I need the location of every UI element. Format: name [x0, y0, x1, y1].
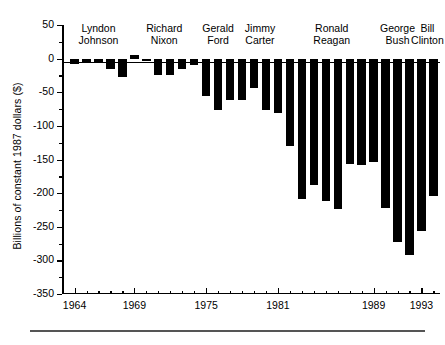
x-tick-1979 [254, 291, 255, 295]
y-tick-label: -300 [22, 253, 54, 265]
bar-1966 [94, 59, 102, 64]
president-label-gerald-ford: GeraldFord [202, 23, 234, 46]
y-tick-0 [57, 59, 62, 60]
bar-1983 [298, 59, 306, 200]
x-tick-1986 [338, 291, 339, 295]
y-tick-label: -150 [22, 153, 54, 165]
x-tick-label: 1975 [194, 299, 217, 311]
president-first-name: Gerald [202, 23, 234, 35]
bar-1990 [381, 59, 389, 208]
president-last-name: Carter [245, 35, 275, 47]
y-tick--350 [57, 294, 62, 295]
bar-1976 [214, 59, 222, 110]
bar-1985 [322, 59, 330, 202]
x-tick-1965 [87, 291, 88, 295]
x-tick-1967 [110, 291, 111, 295]
x-tick-1990 [386, 291, 387, 295]
bar-1967 [106, 59, 114, 70]
y-tick-minor [59, 75, 63, 76]
x-tick-label: 1993 [410, 299, 433, 311]
y-tick-minor [59, 176, 63, 177]
y-tick-label: -250 [22, 220, 54, 232]
y-tick-minor [59, 42, 63, 43]
bar-1991 [393, 59, 401, 243]
president-last-name: Reagan [313, 35, 350, 47]
y-tick-50 [57, 25, 62, 26]
bar-1987 [346, 59, 354, 165]
y-tick-minor [59, 210, 63, 211]
y-tick--200 [57, 193, 62, 194]
president-label-jimmy-carter: JimmyCarter [245, 23, 275, 46]
plot-area: 500-50-100-150-200-250-300-350 196419691… [62, 25, 440, 294]
x-tick-1972 [170, 291, 171, 295]
bar-1989 [369, 59, 377, 163]
bar-1974 [190, 59, 198, 65]
y-tick-label: -100 [22, 119, 54, 131]
bar-1968 [118, 59, 126, 77]
bar-1992 [405, 59, 413, 255]
y-tick-minor [59, 109, 63, 110]
y-tick--300 [57, 260, 62, 261]
bar-1964 [70, 59, 78, 64]
x-tick-label: 1989 [362, 299, 385, 311]
president-label-lyndon-johnson: LyndonJohnson [79, 23, 119, 46]
x-tick-1976 [218, 291, 219, 295]
x-tick-1985 [326, 291, 327, 295]
x-tick-1992 [409, 291, 410, 295]
x-tick-1973 [182, 291, 183, 295]
x-tick-1974 [194, 291, 195, 295]
bar-1993 [417, 59, 425, 232]
president-first-name: Jimmy [245, 23, 275, 35]
y-tick--100 [57, 126, 62, 127]
bar-1982 [286, 59, 294, 146]
x-tick-1988 [362, 291, 363, 295]
x-tick-1969 [134, 288, 135, 294]
president-first-name: Ronald [313, 23, 350, 35]
president-last-name: Ford [202, 35, 234, 47]
president-first-name: George [380, 23, 415, 35]
page-rule [30, 330, 425, 332]
chart-figure: Billions of constant 1987 dollars ($) 50… [0, 0, 445, 345]
bar-1965 [82, 59, 90, 62]
x-tick-1982 [290, 291, 291, 295]
bar-1988 [357, 59, 365, 165]
x-tick-label: 1969 [123, 299, 146, 311]
y-tick-label: -350 [22, 287, 54, 299]
x-tick-1975 [206, 288, 207, 294]
president-first-name: Bill [411, 23, 444, 35]
y-tick-label: -50 [22, 85, 54, 97]
x-tick-1994 [433, 291, 434, 295]
x-tick-1970 [146, 291, 147, 295]
president-label-ronald-reagan: RonaldReagan [313, 23, 350, 46]
president-last-name: Nixon [146, 35, 182, 47]
y-tick-minor [59, 277, 63, 278]
x-tick-1980 [266, 291, 267, 295]
x-tick-label: 1964 [63, 299, 86, 311]
bar-1975 [202, 59, 210, 96]
x-tick-1966 [98, 291, 99, 295]
bar-1969 [130, 55, 138, 58]
bar-1980 [262, 59, 270, 110]
y-tick-minor [59, 143, 63, 144]
bar-1973 [178, 59, 186, 70]
x-tick-1987 [350, 291, 351, 295]
bar-1972 [166, 59, 174, 76]
president-label-bill-clinton: BillClinton [411, 23, 444, 46]
bar-1981 [274, 59, 282, 113]
president-first-name: Richard [146, 23, 182, 35]
y-tick--250 [57, 227, 62, 228]
x-axis-line [62, 293, 440, 295]
president-last-name: Clinton [411, 35, 444, 47]
x-tick-1977 [230, 291, 231, 295]
y-tick-minor [59, 244, 63, 245]
y-tick-label: 0 [22, 52, 54, 64]
bar-1979 [250, 59, 258, 89]
y-tick--50 [57, 92, 62, 93]
bar-1977 [226, 59, 234, 100]
x-tick-1968 [122, 291, 123, 295]
president-label-richard-nixon: RichardNixon [146, 23, 182, 46]
x-tick-1984 [314, 291, 315, 295]
y-tick--150 [57, 160, 62, 161]
president-last-name: Bush [380, 35, 415, 47]
president-last-name: Johnson [79, 35, 119, 47]
